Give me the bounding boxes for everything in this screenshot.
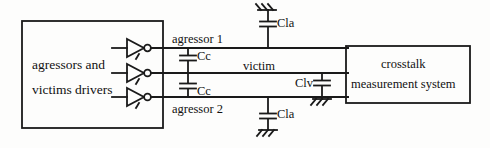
circuit-svg: [0, 0, 490, 148]
capacitor-label-cla-bottom: Cla: [277, 108, 294, 121]
capacitor-cla-top: [260, 10, 276, 48]
drivers-block-label-line1: agressors and: [32, 58, 105, 72]
capacitor-label-cla-top: Cla: [277, 17, 294, 30]
capacitor-label-cc-top: Cc: [197, 50, 211, 63]
capacitor-label-clv: Clv: [295, 77, 313, 90]
system-block-label-line1: crosstalk: [381, 58, 425, 71]
system-block-label-line2: measurement system: [351, 78, 456, 91]
capacitor-clv: [314, 73, 330, 99]
capacitor-cc-top: [180, 48, 196, 73]
system-block-outline: [346, 46, 470, 103]
drivers-block-label-line2: victims drivers: [32, 83, 113, 97]
net-label-agressor-2: agressor 2: [172, 103, 223, 116]
net-label-agressor-1: agressor 1: [172, 33, 223, 46]
crosstalk-circuit-figure: agressors and victims drivers agressor 1…: [0, 0, 490, 148]
capacitor-cla-bottom: [260, 97, 276, 130]
ground-icon-cla-bottom: [257, 130, 277, 136]
ground-icon-clv: [311, 99, 331, 105]
capacitor-label-cc-bottom: Cc: [197, 85, 211, 98]
capacitor-cc-bottom: [180, 73, 196, 97]
net-label-victim: victim: [243, 60, 275, 73]
ground-icon-cla-top: [256, 4, 276, 10]
